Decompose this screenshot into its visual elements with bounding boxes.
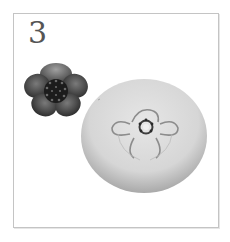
mold-icon (80, 78, 208, 195)
mold-image (80, 78, 208, 195)
step-number: 3 (28, 18, 47, 48)
